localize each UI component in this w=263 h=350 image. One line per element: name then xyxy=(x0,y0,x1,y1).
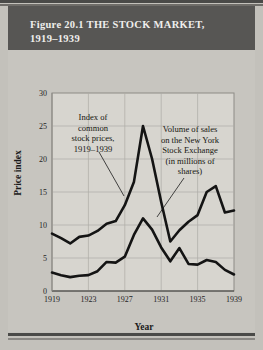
bottom-rule xyxy=(8,333,255,336)
y-axis-title: Price index xyxy=(13,133,23,213)
svg-text:5: 5 xyxy=(43,254,47,263)
annotation-volume-line-2: on the New York xyxy=(161,135,219,145)
svg-text:1935: 1935 xyxy=(190,295,206,304)
svg-text:1939: 1939 xyxy=(226,295,242,304)
x-tick-labels: 1919 1923 1927 1931 1935 1939 xyxy=(44,295,242,304)
svg-text:25: 25 xyxy=(39,122,47,131)
y-tick-labels: 0 5 10 15 20 25 30 xyxy=(39,89,47,296)
annotation-stock-prices-line-2: common xyxy=(78,123,108,133)
annotation-stock-prices-line-1: Index of xyxy=(79,112,108,122)
annotation-volume-line-3: Stock Exchange xyxy=(162,145,218,155)
svg-text:1919: 1919 xyxy=(44,295,60,304)
annotation-stock-prices-line-4: 1919–1939 xyxy=(74,144,113,154)
svg-text:30: 30 xyxy=(39,89,47,98)
bottom-rule-shadow xyxy=(8,338,255,340)
annotation-volume-line-4: (in millions of xyxy=(165,156,214,166)
svg-text:1927: 1927 xyxy=(117,295,133,304)
annotation-volume-line-1: Volume of sales xyxy=(163,124,218,134)
figure-page: Figure 20.1 THE STOCK MARKET, 1919–1939 xyxy=(0,0,263,350)
annotation-stock-prices-line-3: stock prices, xyxy=(72,133,115,143)
annotation-stock-prices: Index of common stock prices, 1919–1939 xyxy=(58,112,128,154)
annotation-volume-line-5: shares) xyxy=(178,166,202,176)
svg-text:10: 10 xyxy=(39,221,47,230)
x-axis-title: Year xyxy=(52,322,236,332)
svg-text:1923: 1923 xyxy=(80,295,96,304)
annotation-volume: Volume of sales on the New York Stock Ex… xyxy=(150,124,230,177)
svg-text:15: 15 xyxy=(39,188,47,197)
svg-text:20: 20 xyxy=(39,155,47,164)
svg-text:1931: 1931 xyxy=(153,295,169,304)
